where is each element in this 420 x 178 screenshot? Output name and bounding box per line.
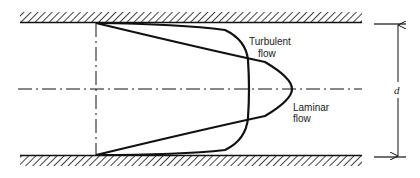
pipe-flow-diagram: Turbulent flow Laminar flow d: [0, 0, 420, 178]
turbulent-label-line2: flow: [258, 48, 277, 59]
top-pipe-wall: [20, 12, 362, 23]
laminar-label-line1: Laminar: [293, 102, 330, 113]
diameter-label: d: [394, 84, 400, 96]
diameter-dimension: d: [374, 24, 406, 157]
bottom-pipe-wall: [20, 156, 362, 167]
laminar-label-line2: flow: [293, 113, 312, 124]
turbulent-label-line1: Turbulent: [249, 36, 291, 47]
